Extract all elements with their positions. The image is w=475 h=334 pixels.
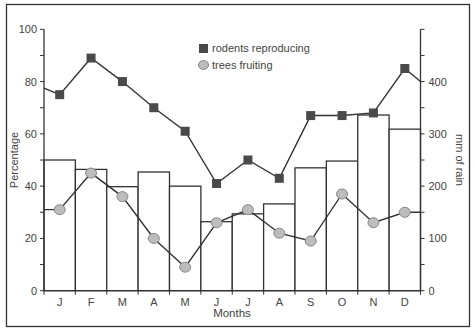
x-tick-label: D	[401, 296, 409, 308]
rodent-point	[149, 103, 158, 112]
tree-point	[368, 218, 379, 228]
chart: 0204060801000100200300400JFMAMJJASOND ro…	[0, 0, 475, 334]
x-tick-label: N	[369, 296, 377, 308]
rodent-point	[400, 64, 409, 73]
x-tick-label: S	[307, 296, 314, 308]
y2-tick-label: 400	[429, 76, 447, 88]
y-tick-label: 60	[25, 128, 37, 140]
rodent-point	[243, 156, 252, 165]
y-tick-label: 80	[25, 76, 37, 88]
x-tick-label: A	[150, 296, 158, 308]
x-axis-label: Months	[213, 307, 251, 319]
rainfall-bar	[44, 160, 75, 291]
rodent-point	[275, 174, 284, 183]
rainfall-bar	[75, 169, 106, 290]
tree-point	[148, 233, 159, 243]
tree-point	[86, 168, 97, 178]
tree-point	[305, 236, 316, 246]
rainfall-bar	[295, 168, 326, 291]
rainfall-bar	[201, 222, 232, 291]
rainfall-bar	[138, 172, 169, 291]
x-tick-label: J	[214, 296, 220, 308]
y2-axis-label: mm of rain	[454, 134, 466, 186]
legend-tree-label: trees fruiting	[212, 59, 273, 71]
tree-point	[54, 205, 65, 215]
rainfall-bar	[170, 186, 201, 291]
legend: rodents reproducing trees fruiting	[199, 42, 310, 71]
rainfall-bars	[44, 115, 421, 291]
tree-point	[211, 218, 222, 228]
y2-tick-label: 0	[429, 285, 435, 297]
x-tick-label: J	[245, 296, 251, 308]
y2-tick-label: 100	[429, 232, 447, 244]
tree-point	[399, 207, 410, 217]
rodent-point	[306, 111, 315, 120]
legend-rodent-marker	[199, 44, 208, 53]
rainfall-bar	[107, 187, 138, 291]
rainfall-bar	[232, 214, 263, 291]
rodent-point	[55, 90, 64, 99]
tree-point	[242, 205, 253, 215]
y-tick-label: 20	[25, 232, 37, 244]
y2-tick-label: 200	[429, 180, 447, 192]
rodent-point	[338, 111, 347, 120]
x-tick-label: J	[57, 296, 63, 308]
x-tick-label: M	[118, 296, 127, 308]
legend-tree-marker	[199, 61, 209, 70]
rainfall-bar	[326, 161, 357, 291]
y-axis-label: Percentage	[8, 132, 20, 188]
rodent-point	[118, 77, 127, 86]
tree-point	[117, 192, 128, 202]
rainfall-bar	[264, 204, 295, 291]
rainfall-bar	[358, 115, 389, 291]
tree-point	[180, 262, 191, 272]
x-tick-label: M	[181, 296, 190, 308]
x-tick-label: O	[338, 296, 347, 308]
rodent-point	[87, 54, 96, 63]
y-tick-label: 40	[25, 180, 37, 192]
rodent-point	[181, 127, 190, 136]
y2-tick-label: 300	[429, 128, 447, 140]
tree-point	[337, 189, 348, 199]
legend-rodent-label: rodents reproducing	[212, 42, 310, 54]
y-tick-label: 100	[19, 23, 37, 35]
x-tick-label: F	[88, 296, 95, 308]
rodent-point	[369, 108, 378, 117]
tree-point	[274, 228, 285, 238]
y-tick-label: 0	[31, 285, 37, 297]
x-tick-label: A	[276, 296, 284, 308]
rodent-point	[212, 179, 221, 188]
